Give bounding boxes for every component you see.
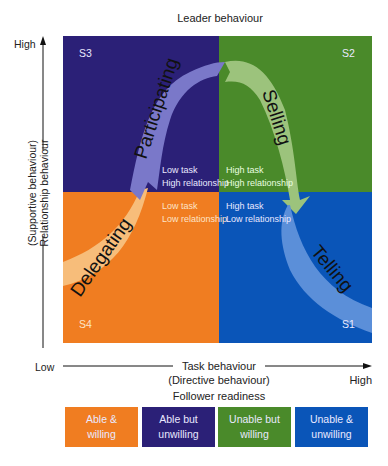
y-axis-label-line2: Relationship behaviour <box>38 139 50 246</box>
s4-relationship-text: Low relationship <box>162 214 227 224</box>
quadrant-s2-id: S2 <box>342 47 355 59</box>
readiness-box-able-unwilling: Able but unwilling <box>142 407 215 447</box>
s4-task-text: Low task <box>162 201 198 211</box>
x-axis-label-line2: (Directive behaviour) <box>168 374 269 386</box>
quadrant-s4-id: S4 <box>79 318 92 330</box>
s3-task-text: Low task <box>162 165 198 175</box>
diagram-canvas: (Supportive behaviour) Relationship beha… <box>0 0 388 466</box>
follower-readiness-title: Follower readiness <box>173 390 266 402</box>
y-axis-label-line1: (Supportive behaviour) <box>26 140 38 246</box>
x-axis-label-line1: Task behaviour <box>182 360 256 372</box>
x-axis-high-label: High <box>349 374 372 386</box>
s1-task-text: High task <box>226 201 264 211</box>
s2-relationship-text: High relationship <box>226 178 293 188</box>
s1-relationship-text: Low relationship <box>226 214 291 224</box>
readiness-box-able-willing: Able & willing <box>65 407 138 447</box>
quadrant-s3-id: S3 <box>79 47 92 59</box>
readiness-box-unable-willing: Unable but willing <box>218 407 291 447</box>
quadrant-s1-id: S1 <box>342 318 355 330</box>
s3-relationship-text: High relationship <box>162 178 229 188</box>
s2-task-text: High task <box>226 165 264 175</box>
readiness-box-unable-unwilling: Unable & unwilling <box>295 407 368 447</box>
